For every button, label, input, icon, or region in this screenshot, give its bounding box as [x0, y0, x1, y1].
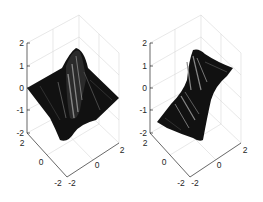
surface-plot-right-canvas: 2 1 0 -1 -2 2 0 -2 -2 0 2 [131, 0, 263, 202]
x-tick: 2 [120, 145, 125, 155]
z-tick: 0 [19, 83, 24, 93]
x-tick: -2 [191, 178, 199, 188]
z-tick: -1 [16, 105, 24, 115]
y-tick: -2 [177, 178, 185, 188]
z-tick: 0 [142, 83, 147, 93]
x-tick: 0 [217, 160, 222, 170]
x-tick: 2 [243, 145, 248, 155]
x-axis-ticks: -2 0 2 [68, 145, 124, 188]
y-tick: 0 [39, 157, 44, 167]
x-axis-ticks: -2 0 2 [191, 145, 247, 188]
y-tick: -2 [54, 178, 62, 188]
y-tick: 2 [143, 138, 148, 148]
z-axis-ticks: 2 1 0 -1 -2 [16, 38, 24, 138]
surface-plot-left-canvas: 2 1 0 -1 -2 2 0 -2 -2 0 2 [0, 0, 131, 202]
z-tick: 1 [142, 61, 147, 71]
z-tick: 2 [142, 38, 147, 48]
z-tick: -2 [16, 128, 24, 138]
y-axis-ticks: 2 0 -2 [20, 138, 62, 188]
z-axis-ticks: 2 1 0 -1 -2 [139, 38, 147, 138]
x-tick: 0 [95, 160, 100, 170]
surface-plot-right: 2 1 0 -1 -2 2 0 -2 -2 0 2 [131, 0, 263, 202]
z-tick: -2 [139, 128, 147, 138]
x-tick: -2 [68, 178, 76, 188]
y-tick: 2 [20, 138, 25, 148]
surface-mesh [157, 50, 233, 141]
y-axis-ticks: 2 0 -2 [143, 138, 185, 188]
y-tick: 0 [162, 157, 167, 167]
z-tick: -1 [139, 105, 147, 115]
z-tick: 2 [19, 38, 24, 48]
z-tick: 1 [19, 61, 24, 71]
surface-plot-left: 2 1 0 -1 -2 2 0 -2 -2 0 2 [0, 0, 131, 202]
